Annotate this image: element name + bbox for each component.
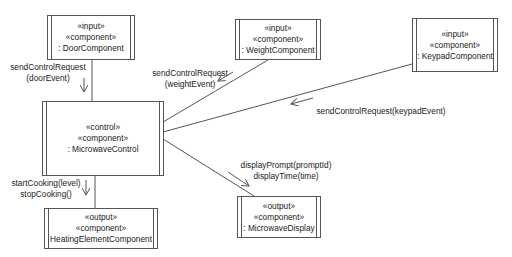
component-name: : WeightComponent [241,45,314,56]
arrow-keypad-icon [291,98,313,104]
message-keypad: sendControlRequest(keypadEvent) [306,106,456,117]
component-display[interactable]: «output» «component» : MicrowaveDisplay [237,196,321,238]
stereotype: «component» [78,133,128,144]
component-control[interactable]: «control» «component» : MicrowaveControl [42,101,164,176]
stereotype: «component» [254,212,304,223]
component-heating[interactable]: «output» «component» HeatingElementCompo… [44,208,158,249]
stereotype: «component» [253,34,303,45]
stereotype: «input» [77,21,104,32]
stereotype: «component» [66,32,116,43]
stereotype: «output» [85,212,117,223]
component-name: : KeypadComponent [417,51,493,62]
stereotype: «component» [430,40,480,51]
message-heating: startCooking(level) stopCooking() [6,178,86,200]
component-door[interactable]: «input» «component» : DoorComponent [47,15,135,60]
component-keypad[interactable]: «input» «component» : KeypadComponent [412,18,498,72]
stereotype: «control» [86,122,120,133]
message-display: displayPrompt(promptId) displayTime(time… [236,160,336,182]
component-name: : MicrowaveDisplay [243,223,314,234]
stereotype: «input» [264,23,291,34]
component-name: : MicrowaveControl [67,144,138,155]
stereotype: «output» [263,201,295,212]
component-weight[interactable]: «input» «component» : WeightComponent [235,19,321,60]
stereotype: «component» [76,223,126,234]
component-name: : DoorComponent [58,43,124,54]
component-name: HeatingElementComponent [50,234,152,245]
message-door: sendControlRequest (doorEvent) [8,62,88,84]
message-weight: sendControlRequest (weightEvent) [140,68,240,90]
stereotype: «input» [441,29,468,40]
